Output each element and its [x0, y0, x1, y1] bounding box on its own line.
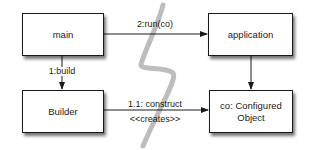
node-builder-label: Builder	[48, 106, 78, 118]
edge-label-creates-stereotype: <<creates>>	[130, 115, 181, 124]
node-main: main	[22, 13, 104, 56]
edge-label-construct: 1.1: construct	[128, 100, 182, 109]
node-application-label: application	[228, 29, 273, 41]
node-builder: Builder	[22, 90, 104, 133]
node-application: application	[208, 13, 293, 56]
edge-label-build: 1:build	[48, 67, 77, 76]
node-main-label: main	[53, 29, 74, 41]
diagram-canvas: main application Builder co: Configured …	[0, 0, 313, 150]
edge-label-run: 2:run(co)	[137, 20, 173, 29]
node-configured-object-line2: Object	[237, 112, 264, 124]
node-configured-object-line1: co: Configured	[220, 100, 282, 112]
node-configured-object: co: Configured Object	[209, 90, 293, 133]
